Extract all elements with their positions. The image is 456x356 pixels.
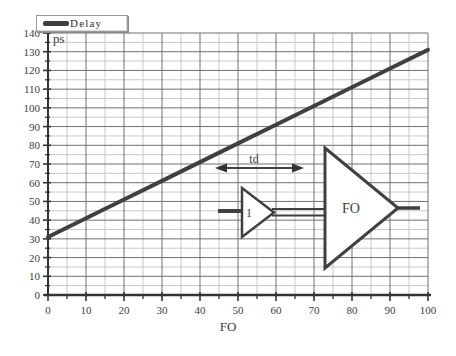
unit-buffer-label: 1: [246, 206, 252, 220]
x-tick-label: 40: [195, 304, 207, 316]
x-tick-label: 30: [157, 304, 169, 316]
td-arrow-right-head-icon: [292, 164, 304, 173]
y-tick-label: 80: [29, 139, 41, 151]
chart-svg: 0102030405060708090100110120130140010203…: [0, 0, 456, 356]
axis-ticks: [43, 33, 428, 301]
fo-buffer-label: FO: [342, 201, 360, 216]
x-axis-title: FO: [220, 319, 237, 334]
fo-buffer-triangle-icon: [325, 148, 398, 268]
y-tick-label: 10: [29, 270, 41, 282]
x-tick-label: 0: [45, 304, 51, 316]
buffer-chain-inset: td 1 FO: [215, 148, 420, 268]
delay-vs-fanout-figure: 0102030405060708090100110120130140010203…: [0, 0, 456, 356]
legend-label: Delay: [70, 18, 102, 29]
legend: Delay: [36, 15, 128, 32]
x-tick-label: 70: [309, 304, 321, 316]
x-tick-label: 50: [233, 304, 245, 316]
y-tick-label: 110: [24, 83, 41, 95]
td-arrow-left-head-icon: [215, 164, 227, 173]
y-tick-label: 90: [29, 121, 41, 133]
y-tick-label: 30: [29, 233, 41, 245]
y-tick-label: 50: [29, 195, 41, 207]
x-tick-label: 20: [119, 304, 131, 316]
y-tick-label: 120: [24, 64, 41, 76]
y-tick-label: 20: [29, 252, 41, 264]
td-arrow-label: td: [249, 152, 258, 166]
x-tick-label: 80: [347, 304, 359, 316]
y-unit-label: ps: [53, 31, 65, 46]
x-tick-label: 10: [81, 304, 93, 316]
y-tick-label: 70: [29, 158, 41, 170]
y-tick-label: 100: [24, 102, 41, 114]
y-tick-label: 40: [29, 214, 41, 226]
y-tick-label: 60: [29, 177, 41, 189]
delay-line-sample-icon: [43, 21, 69, 26]
y-tick-label: 0: [35, 289, 41, 301]
x-tick-label: 90: [385, 304, 397, 316]
y-tick-label: 130: [24, 46, 41, 58]
x-tick-label: 100: [420, 304, 437, 316]
x-tick-label: 60: [271, 304, 283, 316]
